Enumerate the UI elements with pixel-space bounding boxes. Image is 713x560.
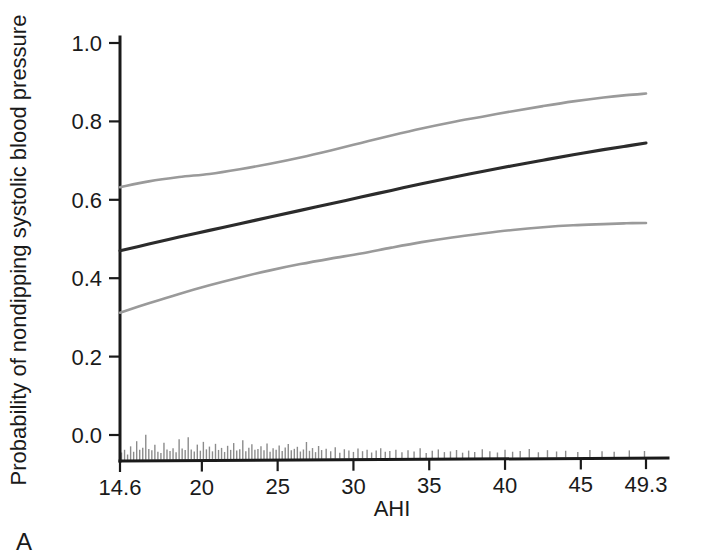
x-tick-label: 25	[265, 474, 289, 499]
y-tick-label: 0.4	[71, 266, 102, 291]
x-tick-label: 40	[493, 473, 517, 498]
y-tick-label: 0.2	[71, 345, 102, 370]
x-tick-label: 45	[569, 472, 593, 497]
figure-panel-a: 0.00.20.40.60.81.0 14.620253035404549.3 …	[0, 0, 713, 560]
x-tick-group: 14.620253035404549.3	[99, 458, 668, 500]
x-tick-label: 35	[417, 473, 441, 498]
curve-group	[120, 94, 646, 313]
y-tick-group: 0.00.20.40.60.81.0	[71, 31, 120, 448]
x-tick-label: 49.3	[625, 472, 668, 497]
panel-label: A	[16, 528, 32, 555]
predicted-probability-curve	[120, 143, 646, 251]
y-tick-label: 0.6	[71, 188, 102, 213]
x-axis-title: AHI	[374, 496, 411, 521]
y-tick-label: 1.0	[71, 31, 102, 56]
x-tick-label: 14.6	[99, 475, 142, 500]
y-axis-title: Probability of nondipping systolic blood…	[6, 15, 31, 486]
y-tick-label: 0.8	[71, 109, 102, 134]
x-tick-label: 30	[341, 474, 365, 499]
x-tick-label: 20	[190, 475, 214, 500]
confidence-interval-curve	[120, 223, 646, 313]
chart-canvas: 0.00.20.40.60.81.0 14.620253035404549.3 …	[0, 0, 713, 560]
x-axis-line	[120, 458, 668, 461]
confidence-interval-curve	[120, 94, 646, 188]
y-tick-label: 0.0	[71, 423, 102, 448]
rug-plot-group	[122, 435, 645, 460]
